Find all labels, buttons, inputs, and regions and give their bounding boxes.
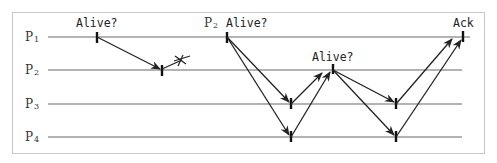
svg-text:P: P — [25, 130, 33, 144]
svg-text:3: 3 — [34, 102, 39, 111]
label-first-probe: Alive? — [76, 16, 118, 30]
svg-text:P: P — [25, 63, 33, 77]
svg-text:2: 2 — [34, 68, 39, 77]
svg-text:P: P — [204, 16, 212, 30]
label-second-probe: Alive? — [226, 16, 268, 30]
svg-text:2: 2 — [213, 21, 218, 30]
svg-text:P: P — [25, 97, 33, 111]
label-relay-probe: Alive? — [312, 50, 354, 64]
svg-text:P: P — [25, 30, 33, 44]
svg-text:1: 1 — [34, 35, 39, 44]
svg-text:4: 4 — [34, 135, 39, 144]
message-sequence-diagram: P 1 P 2 P 3 P 4 Alive? P 2 Alive? Alive?… — [0, 0, 497, 163]
label-ack: Ack — [453, 16, 474, 30]
